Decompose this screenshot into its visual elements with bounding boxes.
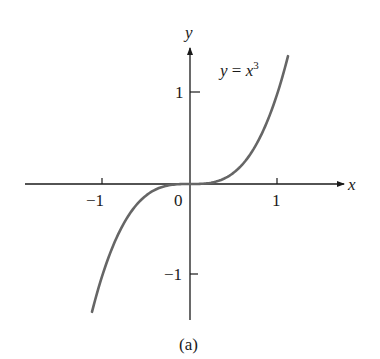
x-axis-label: x: [347, 175, 356, 194]
cubic-function-plot: y x −1 0 1 1 −1 y = x3 (a): [0, 0, 380, 359]
x-tick-label-1: 1: [272, 191, 281, 210]
y-tick-label-neg1: −1: [164, 265, 182, 284]
equation-label: y = x3: [218, 59, 259, 80]
x-tick-label-neg1: −1: [86, 191, 104, 210]
x-tick-label-0: 0: [174, 191, 183, 210]
y-axis-label: y: [183, 23, 193, 42]
y-tick-label-1: 1: [175, 83, 184, 102]
figure-caption: (a): [179, 335, 198, 354]
